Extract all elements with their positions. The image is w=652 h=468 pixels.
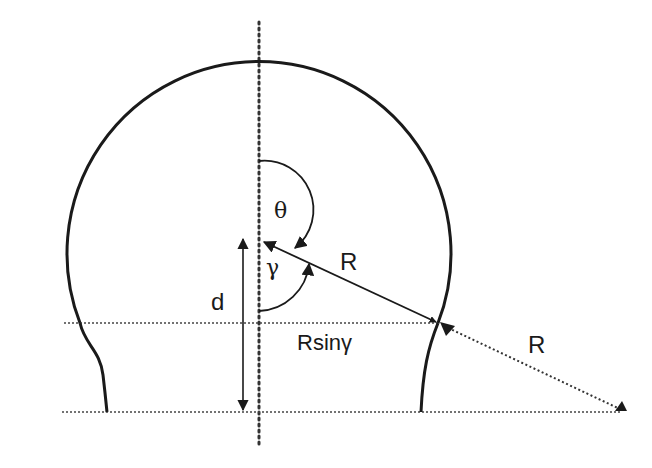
left-neck	[80, 323, 107, 412]
radius-inner-label: R	[340, 248, 357, 275]
horizontal-distance-label: Rsinγ	[297, 330, 352, 355]
right-neck	[421, 323, 438, 412]
outer-radius-arrowhead-start	[440, 322, 455, 336]
outer-radius-arrowhead-end	[615, 401, 627, 411]
diagram-canvas: θ γ R R d Rsinγ	[0, 0, 652, 468]
gamma-label: γ	[266, 255, 279, 280]
theta-label: θ	[274, 198, 287, 223]
radius-outer-label: R	[528, 331, 545, 358]
height-label: d	[211, 288, 224, 315]
